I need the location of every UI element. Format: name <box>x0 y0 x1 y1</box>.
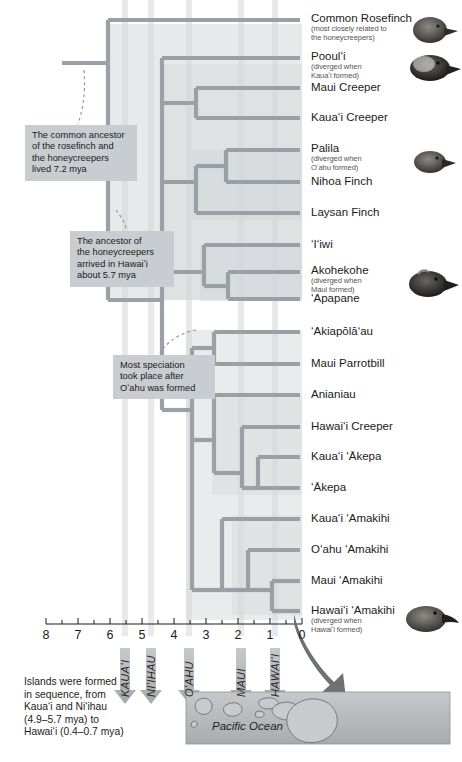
bird-photo-palila <box>410 146 458 178</box>
taxon-akohekohe[interactable]: Akohekohe (diverged when Maui formed) <box>311 264 369 294</box>
island-kauai <box>195 698 212 714</box>
island-label-hawaii: HAWAIʻI <box>269 654 281 697</box>
axis-tick-1: 1 <box>267 628 274 642</box>
taxon-label: Anianiau <box>311 388 356 401</box>
axis-tick-8: 8 <box>43 628 50 642</box>
callout-most-speciation: Most speciation took place after Oʻahu w… <box>113 355 215 399</box>
bird-photo-hawaii-amakihi <box>402 598 460 638</box>
taxon-kauai-akepa[interactable]: Kauaʻi ʻĀkepa <box>311 450 381 463</box>
note-line: in sequence, from <box>24 689 189 702</box>
taxon-label: Kauaʻi ʻĀkepa <box>311 450 381 463</box>
taxon-akepa[interactable]: ʻĀkepa <box>311 481 346 494</box>
axis-tick-3: 3 <box>203 628 210 642</box>
taxon-hawaii-creeper[interactable]: Hawaiʻi Creeper <box>311 420 393 433</box>
taxon-kauai-amakihi[interactable]: Kauaʻi ʻAmakihi <box>311 512 390 525</box>
bird-photo-poouli <box>404 48 462 86</box>
callout-honeycreepers-arrival: The ancestor of the honeycreepers arrive… <box>70 231 174 287</box>
taxon-label: ʻAkiapōlāʻau <box>311 325 373 338</box>
note-line: Islands were formed <box>24 676 189 689</box>
taxon-label: Maui ʻAmakihi <box>311 574 383 587</box>
taxon-hawaii-amakihi[interactable]: Hawaiʻi ʻAmakihi (diverged when Hawaiʻi … <box>311 604 395 634</box>
taxon-label: Maui Parrotbill <box>311 357 385 370</box>
callout-ancestor-rosefinch: The common ancestor of the rosefinch and… <box>25 125 137 181</box>
taxon-anianiau[interactable]: Anianiau <box>311 388 356 401</box>
taxon-maui-creeper[interactable]: Maui Creeper <box>311 81 381 94</box>
callout-line: took place after <box>120 371 209 382</box>
taxon-poouli[interactable]: Pooulʻi (diverged when Kauaʻi formed) <box>311 50 362 80</box>
island-label-maui: MAUI <box>235 668 247 697</box>
taxon-kauai-creeper[interactable]: Kauaʻi Creeper <box>311 111 388 124</box>
taxon-label: ʻIʻiwi <box>311 238 333 251</box>
island-formation-note: Islands were formed in sequence, from Ka… <box>24 676 189 739</box>
callout-line: Most speciation <box>120 360 209 371</box>
axis-tick-2: 2 <box>235 628 242 642</box>
taxon-label: Kauaʻi Creeper <box>311 111 388 124</box>
axis-tick-6: 6 <box>107 628 114 642</box>
note-line: (4.9–5.7 mya) to <box>24 714 189 727</box>
callout-line: of the rosefinch and <box>32 141 131 152</box>
leader-ancestor-rosefinch <box>78 70 85 124</box>
pacific-ocean-label: Pacific Ocean <box>212 720 283 732</box>
taxon-palila[interactable]: Palila (diverged when Oʻahu formed) <box>311 142 362 172</box>
taxon-sublabel-2: Hawaiʻi formed) <box>311 626 395 635</box>
taxon-label: Maui Creeper <box>311 81 381 94</box>
bird-photo-common-rosefinch <box>408 12 460 48</box>
axis-tick-7: 7 <box>75 628 82 642</box>
taxon-label: Hawaiʻi Creeper <box>311 420 393 433</box>
taxon-maui-amakihi[interactable]: Maui ʻAmakihi <box>311 574 383 587</box>
taxon-label: ʻApapane <box>311 292 360 305</box>
axis-tick-4: 4 <box>171 628 178 642</box>
taxon-label: ʻĀkepa <box>311 481 346 494</box>
callout-line: the honeycreepers <box>32 153 131 164</box>
island-hawaii <box>287 699 337 743</box>
island-oahu <box>223 703 242 716</box>
taxon-iiwi[interactable]: ʻIʻiwi <box>311 238 333 251</box>
callout-line: lived 7.2 mya <box>32 164 131 175</box>
taxon-laysan-finch[interactable]: Laysan Finch <box>311 206 379 219</box>
callout-line: the honeycreepers <box>77 247 168 258</box>
callout-line: The ancestor of <box>77 236 168 247</box>
axis-tick-0: 0 <box>299 628 306 642</box>
taxon-oahu-amakihi[interactable]: Oʻahu ʻAmakihi <box>311 543 388 556</box>
taxon-apapane[interactable]: ʻApapane <box>311 292 360 305</box>
taxon-sublabel-2: Kauaʻi formed) <box>311 72 362 81</box>
note-line: Hawaiʻi (0.4–0.7 mya) <box>24 726 189 739</box>
taxon-sublabel-2: the honeycreepers) <box>311 34 412 43</box>
axis-tick-5: 5 <box>139 628 146 642</box>
taxon-label: Oʻahu ʻAmakihi <box>311 543 388 556</box>
taxon-common-rosefinch[interactable]: Common Rosefinch (most closely related t… <box>311 12 412 42</box>
taxon-nihoa-finch[interactable]: Nihoa Finch <box>311 175 372 188</box>
taxon-sublabel-2: Oʻahu formed) <box>311 164 362 173</box>
note-line: Kauaʻi and Niʻihau <box>24 701 189 714</box>
callout-line: arrived in Hawaiʻi <box>77 259 168 270</box>
callout-line: The common ancestor <box>32 130 131 141</box>
bird-photo-akohekohe <box>404 264 460 302</box>
taxon-maui-parrotbill[interactable]: Maui Parrotbill <box>311 357 385 370</box>
taxon-label: Nihoa Finch <box>311 175 372 188</box>
taxon-akiapolaau[interactable]: ʻAkiapōlāʻau <box>311 325 373 338</box>
taxon-label: Laysan Finch <box>311 206 379 219</box>
island-lanai <box>255 711 264 717</box>
island-niihau <box>191 721 197 727</box>
callout-line: about 5.7 mya <box>77 270 168 281</box>
taxon-label: Kauaʻi ʻAmakihi <box>311 512 390 525</box>
callout-line: Oʻahu was formed <box>120 383 209 394</box>
